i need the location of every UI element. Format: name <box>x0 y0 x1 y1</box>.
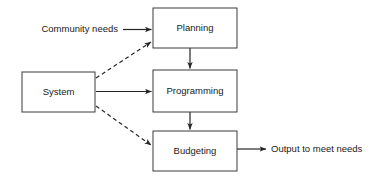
node-budgeting-label: Budgeting <box>174 145 217 156</box>
node-system[interactable]: System <box>22 72 95 112</box>
label-community-needs: Community needs <box>41 23 118 34</box>
flow-diagram: Planning Programming Budgeting System Co… <box>0 0 386 181</box>
label-output-to-meet-needs: Output to meet needs <box>271 143 363 154</box>
flow-diagram-canvas: Planning Programming Budgeting System Co… <box>0 0 386 181</box>
node-planning[interactable]: Planning <box>153 8 237 48</box>
node-programming-label: Programming <box>166 85 223 96</box>
node-planning-label: Planning <box>177 22 214 33</box>
node-programming[interactable]: Programming <box>153 70 237 112</box>
node-budgeting[interactable]: Budgeting <box>153 131 237 171</box>
edge-system-to-planning <box>96 42 151 78</box>
node-system-label: System <box>43 86 75 97</box>
edge-system-to-budgeting <box>96 106 151 145</box>
